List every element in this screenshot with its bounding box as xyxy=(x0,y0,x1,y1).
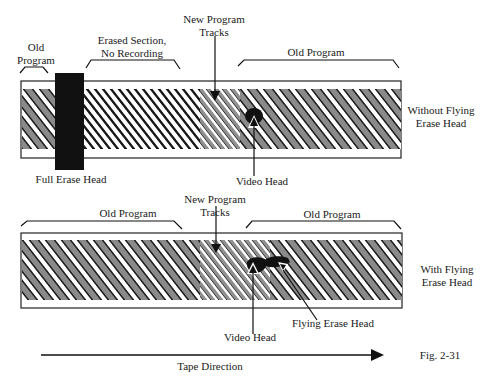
tape-direction-arrow: Tape Direction xyxy=(41,349,384,372)
title-with-flying: With Flying xyxy=(420,263,474,275)
label-video-head-bottom: Video Head xyxy=(224,331,277,343)
label-new-program-top: New Program xyxy=(183,13,245,25)
label-tracks-bottom: Tracks xyxy=(200,206,230,218)
title-without-flying-2: Erase Head xyxy=(416,117,467,129)
label-new-program-bottom: New Program xyxy=(184,193,246,205)
label-old-program-right-bottom: Old Program xyxy=(303,208,361,220)
bracket-erased xyxy=(86,60,180,69)
label-old-program-left: Old xyxy=(28,41,45,53)
bottom-panel-with-flying-erase: Old Program New Program Tracks Old Progr… xyxy=(21,193,474,343)
label-tracks-top: Tracks xyxy=(199,26,229,38)
label-old-program-left-2: Program xyxy=(17,54,55,66)
figure-caption: Fig. 2-31 xyxy=(420,349,460,361)
label-full-erase-head: Full Erase Head xyxy=(36,173,107,185)
bracket-old-program-right-bottom xyxy=(246,221,401,229)
full-erase-head xyxy=(55,73,84,170)
bracket-old-program-left xyxy=(20,67,48,73)
tape-erase-diagram: Old Program Erased Section, No Recording… xyxy=(0,0,491,379)
label-tape-direction: Tape Direction xyxy=(177,360,243,372)
label-no-recording: No Recording xyxy=(101,47,164,59)
label-erased-section: Erased Section, xyxy=(98,34,167,46)
label-old-program-left-bottom: Old Program xyxy=(99,207,157,219)
bracket-old-program-left-bottom xyxy=(21,221,182,229)
label-flying-erase-head: Flying Erase Head xyxy=(292,317,374,329)
label-old-program-right-top: Old Program xyxy=(287,46,345,58)
top-panel-without-flying-erase: Old Program Erased Section, No Recording… xyxy=(17,13,475,187)
tape-tracks-bottom xyxy=(22,240,402,300)
bracket-old-program-right xyxy=(238,60,399,68)
title-with-flying-2: Erase Head xyxy=(422,276,473,288)
label-video-head-top: Video Head xyxy=(236,175,289,187)
title-without-flying: Without Flying xyxy=(407,104,475,116)
